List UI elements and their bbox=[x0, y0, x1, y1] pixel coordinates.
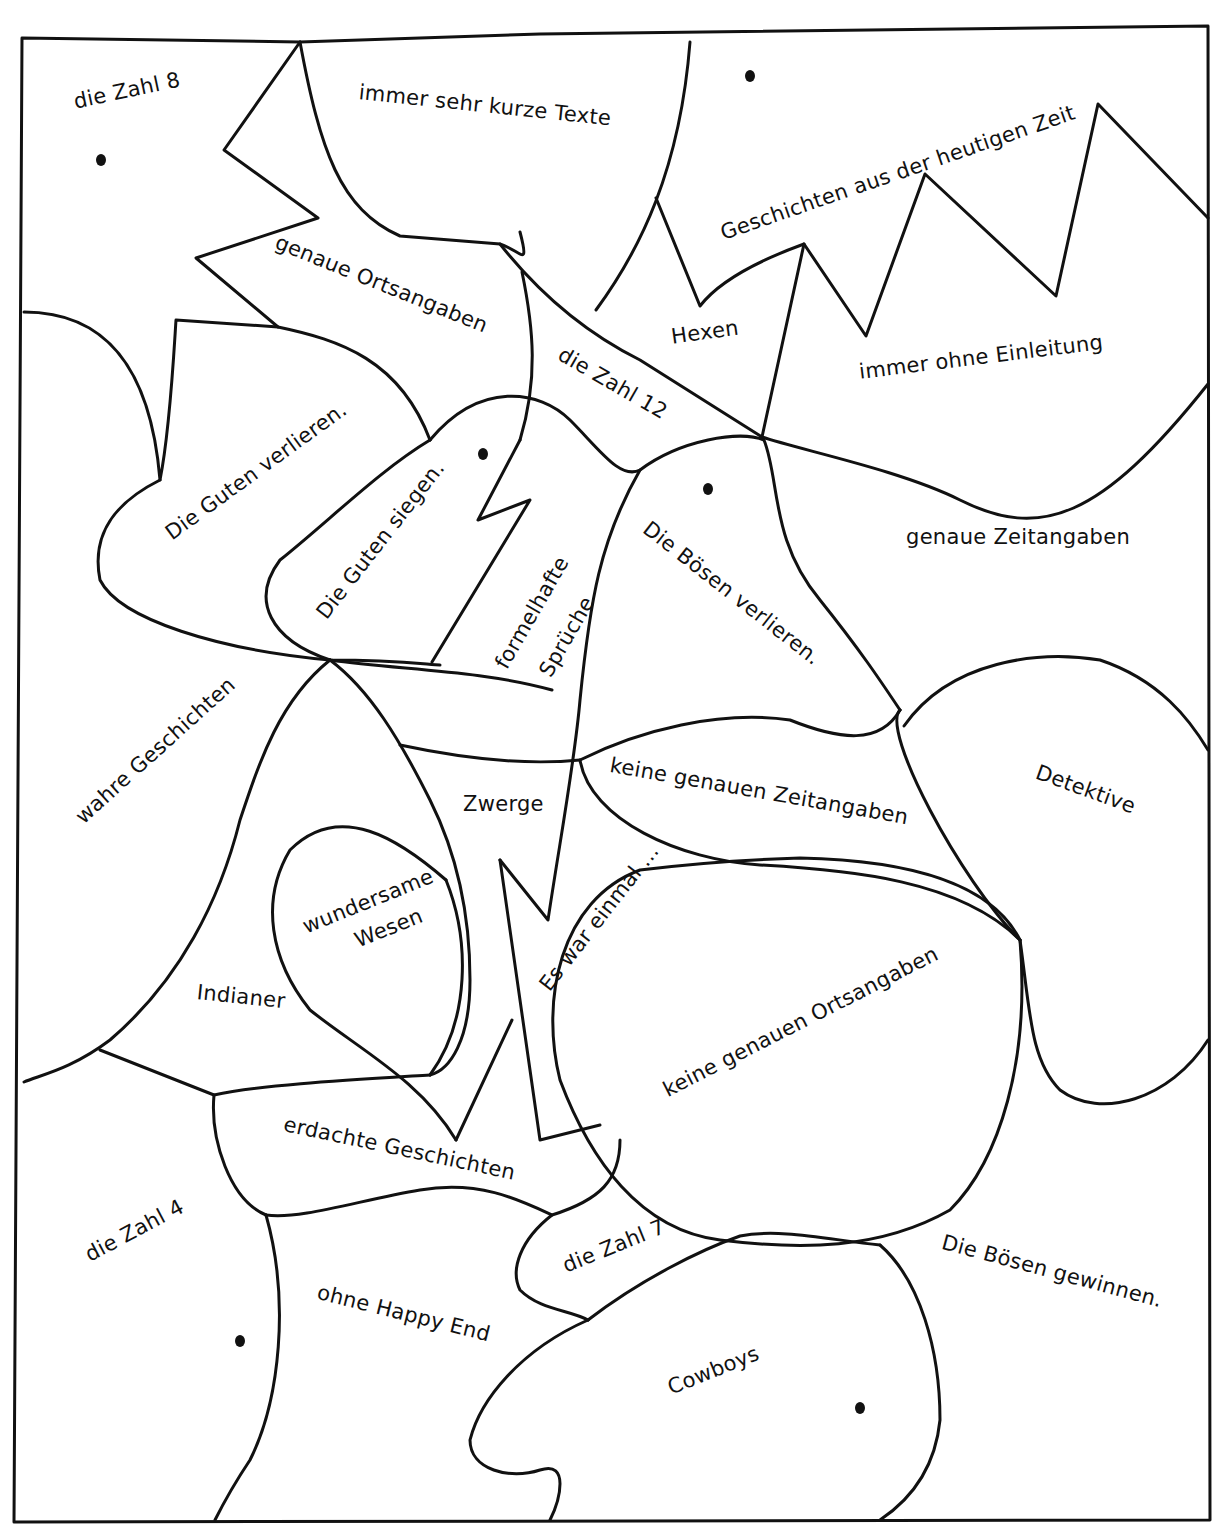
region-label-genaue-zeit: genaue Zeitangaben bbox=[906, 527, 1130, 548]
coloring-puzzle-sheet: die Zahl 8immer sehr kurze TexteGeschich… bbox=[0, 0, 1224, 1531]
dot-icon bbox=[745, 70, 755, 82]
dot-icon bbox=[96, 154, 106, 166]
dot-icon bbox=[855, 1402, 865, 1414]
dot-icon bbox=[235, 1335, 245, 1347]
dot-icon bbox=[478, 448, 488, 460]
dot-icon bbox=[703, 483, 713, 495]
region-label-zwerge: Zwerge bbox=[463, 794, 544, 815]
cropped-title-remnant bbox=[0, 0, 1224, 6]
